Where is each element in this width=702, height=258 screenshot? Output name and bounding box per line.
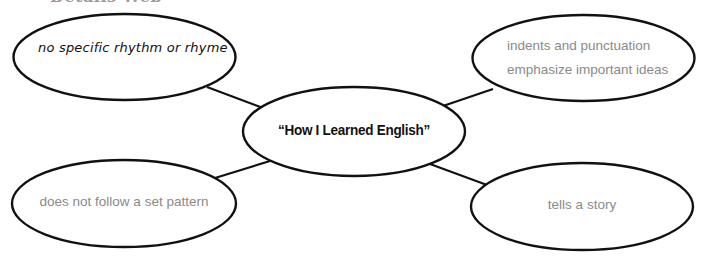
node-text-bottom-left: does not follow a set pattern [24,194,224,209]
connector-bottom-left [215,161,270,178]
node-text-bottom-right: tells a story [482,197,682,212]
node-text-top-left: no specific rhythm or rhyme [38,40,214,55]
connector-bottom-right [430,164,487,185]
node-ellipse-top-right [473,15,695,101]
node-text-top-right-line1: indents and punctuation [507,38,650,53]
details-web-diagram: Details Web no specific rhythm or rhyme … [0,0,702,258]
center-label: “How I Learned English” [264,121,444,138]
node-ellipse-top-left [14,14,236,100]
node-text-top-right-line2: emphasize important ideas [507,62,668,77]
connector-top-right [443,89,493,106]
connector-top-left [207,87,263,108]
